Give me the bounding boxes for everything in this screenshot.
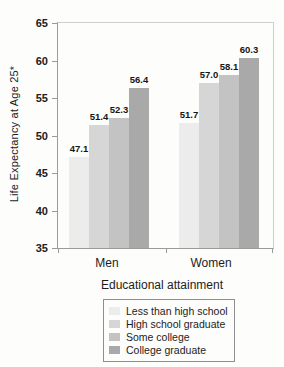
- y-tick-label: 65: [16, 17, 48, 29]
- legend-swatch-icon: [109, 320, 120, 328]
- y-tick: [52, 98, 58, 99]
- y-tick-label: 35: [16, 242, 48, 254]
- y-tick: [52, 173, 58, 174]
- y-tick: [52, 23, 58, 24]
- bar-value-label: 60.3: [233, 44, 265, 55]
- bar: [109, 118, 129, 248]
- legend-swatch-icon: [109, 333, 120, 341]
- legend-item: Less than high school: [109, 304, 228, 317]
- bar: [89, 125, 109, 248]
- legend-swatch-icon: [109, 346, 120, 354]
- y-tick: [52, 61, 58, 62]
- bar: [239, 58, 259, 248]
- legend-swatch-icon: [109, 307, 120, 315]
- category-label: Women: [171, 256, 251, 270]
- y-tick-label: 55: [16, 92, 48, 104]
- x-tick: [166, 248, 167, 253]
- life-expectancy-bar-chart: Life Expectancy at Age 25* 3540455055606…: [0, 0, 284, 367]
- x-tick: [58, 248, 59, 253]
- bar: [199, 83, 219, 248]
- y-tick-label: 60: [16, 55, 48, 67]
- legend-item-label: Some college: [126, 331, 190, 343]
- bar-value-label: 56.4: [123, 74, 155, 85]
- legend-item-label: Less than high school: [126, 305, 228, 317]
- y-tick-label: 40: [16, 205, 48, 217]
- x-axis-title: Educational attainment: [72, 278, 252, 292]
- x-tick: [272, 248, 273, 253]
- bar: [179, 123, 199, 248]
- bar: [219, 75, 239, 248]
- plot-area: 3540455055606547.151.452.356.4Men51.757.…: [57, 22, 274, 249]
- legend-item: Some college: [109, 330, 228, 343]
- y-tick-label: 45: [16, 167, 48, 179]
- legend-item: High school graduate: [109, 317, 228, 330]
- bar: [69, 157, 89, 248]
- legend-item-label: High school graduate: [126, 318, 225, 330]
- legend-item: College graduate: [109, 343, 228, 356]
- bar: [129, 88, 149, 249]
- category-label: Men: [67, 256, 147, 270]
- legend-item-label: College graduate: [126, 344, 206, 356]
- legend: Less than high schoolHigh school graduat…: [103, 299, 235, 362]
- y-tick: [52, 211, 58, 212]
- y-tick: [52, 136, 58, 137]
- y-tick-label: 50: [16, 130, 48, 142]
